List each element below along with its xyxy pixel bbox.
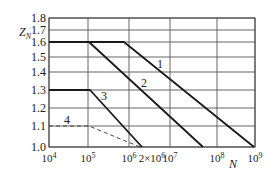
horizontal-gridlines xyxy=(49,18,255,147)
x-tick-label: 104 xyxy=(42,151,57,164)
x-axis-label: N xyxy=(228,157,238,171)
y-axis-ticks: 1.81.71.61.51.41.31.21.11.0 xyxy=(31,11,46,154)
x-tick-label: 109 xyxy=(248,151,263,164)
y-tick-label: 1.2 xyxy=(31,101,46,115)
x-tick-label: 105 xyxy=(81,151,96,164)
zn-vs-n-chart: 1.81.71.61.51.41.31.21.11.0 1041051062×1… xyxy=(0,0,274,181)
x-tick-label: 2×106 xyxy=(139,151,166,164)
curve-label: 3 xyxy=(101,89,107,103)
curves xyxy=(49,42,254,147)
y-tick-label: 1.4 xyxy=(31,65,46,79)
x-tick-label: 106 xyxy=(122,151,137,164)
curve-1 xyxy=(49,42,254,147)
x-tick-label: 107 xyxy=(163,151,178,164)
curve-label: 1 xyxy=(157,57,163,71)
curve-2 xyxy=(49,42,203,147)
y-tick-label: 1.1 xyxy=(31,119,46,133)
y-tick-label: 1.6 xyxy=(31,35,46,49)
curve-label: 4 xyxy=(64,113,70,127)
y-tick-label: 1.3 xyxy=(31,83,46,97)
x-tick-label: 108 xyxy=(210,151,225,164)
vertical-gridlines xyxy=(49,18,255,147)
y-axis-label: ZN xyxy=(19,25,32,41)
y-tick-label: 1.5 xyxy=(31,50,46,64)
plot-frame xyxy=(49,18,255,147)
curve-label: 2 xyxy=(141,76,147,90)
curve-3 xyxy=(49,90,142,147)
